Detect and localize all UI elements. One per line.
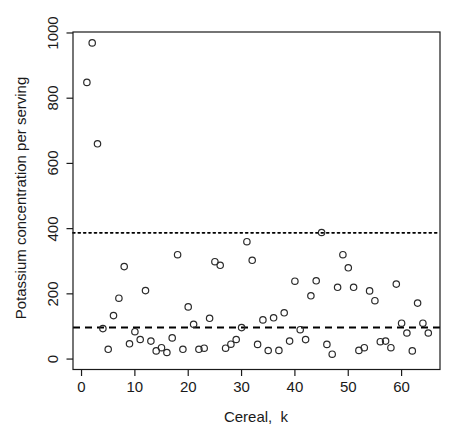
data-point [206,315,212,321]
data-point [142,287,148,293]
y-axis-label: Potassium concentration per serving [12,77,29,320]
data-point [185,304,191,310]
y-tick-label: 800 [44,86,61,111]
data-point [340,252,346,258]
plot-box [73,32,440,370]
data-point [350,284,356,290]
data-point [158,345,164,351]
data-point [372,298,378,304]
data-point [329,351,335,357]
data-point [420,320,426,326]
data-point [148,338,154,344]
data-point [249,257,255,263]
x-tick-label: 50 [340,378,357,395]
data-point [121,263,127,269]
y-tick-label: 1000 [44,16,61,49]
data-point [297,327,303,333]
y-tick-label: 400 [44,216,61,241]
data-point [270,315,276,321]
x-tick-label: 40 [287,378,304,395]
data-point [132,329,138,335]
data-point [105,346,111,352]
data-point [137,336,143,342]
scatter-plot-figure: Potassium concentration per serving Cere… [0,0,460,440]
x-tick-label: 20 [180,378,197,395]
data-point [116,295,122,301]
data-point [100,325,106,331]
data-point [110,312,116,318]
data-point [180,346,186,352]
data-point [217,262,223,268]
data-point [313,278,319,284]
data-point [169,335,175,341]
data-point [414,300,420,306]
y-tick-label: 200 [44,281,61,306]
data-point [393,281,399,287]
data-point [244,239,250,245]
x-tick-label: 10 [127,378,144,395]
x-tick-label: 0 [77,378,85,395]
data-point [409,348,415,354]
y-tick-label: 0 [44,355,61,363]
data-point [84,79,90,85]
data-point [345,265,351,271]
plot-svg [0,0,460,440]
data-point [190,321,196,327]
x-tick-label: 30 [233,378,250,395]
data-point [286,338,292,344]
data-point [425,330,431,336]
data-point [233,336,239,342]
data-point [254,341,260,347]
x-tick-label: 60 [393,378,410,395]
data-point [94,141,100,147]
data-point [324,341,330,347]
data-point [404,330,410,336]
data-point [308,293,314,299]
data-point [265,347,271,353]
data-point [126,341,132,347]
data-point [276,347,282,353]
data-point [388,345,394,351]
data-point [366,288,372,294]
data-point [361,345,367,351]
data-point [302,336,308,342]
x-axis-label: Cereal, k [224,408,288,425]
data-point [174,252,180,258]
data-point [281,310,287,316]
y-tick-label: 600 [44,151,61,176]
data-point [398,320,404,326]
data-point [334,284,340,290]
data-point [228,341,234,347]
data-point [260,317,266,323]
data-point [89,40,95,46]
data-point [164,349,170,355]
data-point [292,278,298,284]
